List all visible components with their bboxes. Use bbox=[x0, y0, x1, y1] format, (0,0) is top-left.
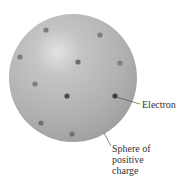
electron-dot bbox=[117, 60, 122, 65]
sphere-label-line-1: Sphere of bbox=[112, 143, 151, 154]
electron-dot bbox=[112, 93, 117, 98]
electron-dot bbox=[64, 93, 69, 98]
positive-charge-sphere bbox=[9, 14, 137, 142]
electron-dot bbox=[32, 81, 37, 86]
plum-pudding-diagram bbox=[0, 0, 186, 182]
electron-dot bbox=[75, 59, 80, 64]
sphere-label: Sphere of positive charge bbox=[112, 143, 151, 176]
electron-label: Electron bbox=[142, 99, 176, 110]
sphere-label-line-3: charge bbox=[112, 165, 151, 176]
electron-dot bbox=[43, 27, 48, 32]
sphere-label-line-2: positive bbox=[112, 154, 151, 165]
electron-dot bbox=[17, 54, 22, 59]
electron-dot bbox=[38, 120, 43, 125]
electron-dot bbox=[97, 32, 102, 37]
electron-dot bbox=[69, 131, 74, 136]
sphere-leader-line bbox=[104, 133, 111, 146]
